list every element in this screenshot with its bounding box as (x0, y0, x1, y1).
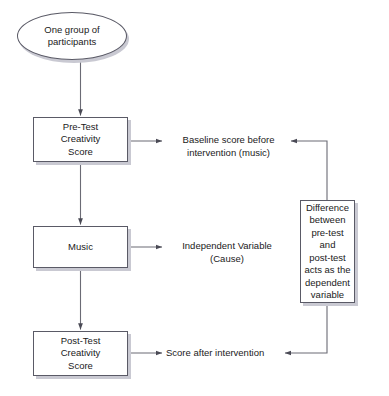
connector-difference-to-after (285, 303, 327, 353)
node-difference-label: Difference between pre-test and post-tes… (301, 202, 354, 302)
node-post-test-label: Post-Test Creativity Score (58, 335, 104, 373)
node-music[interactable]: Music (33, 226, 128, 268)
node-difference[interactable]: Difference between pre-test and post-tes… (300, 200, 355, 303)
label-score-after-intervention: Score after intervention (166, 347, 286, 360)
node-pre-test-label: Pre-Test Creativity Score (58, 121, 104, 159)
node-post-test[interactable]: Post-Test Creativity Score (33, 331, 128, 376)
node-participants-label: One group of participants (41, 24, 102, 49)
connector-difference-to-baseline (291, 141, 327, 200)
label-baseline-score: Baseline score before intervention (musi… (166, 134, 291, 159)
node-pre-test[interactable]: Pre-Test Creativity Score (33, 117, 128, 162)
label-independent-variable: Independent Variable (Cause) (166, 240, 288, 265)
node-participants[interactable]: One group of participants (17, 12, 127, 60)
flowchart-diagram: One group of participants Pre-Test Creat… (0, 0, 389, 396)
node-music-label: Music (65, 241, 96, 254)
